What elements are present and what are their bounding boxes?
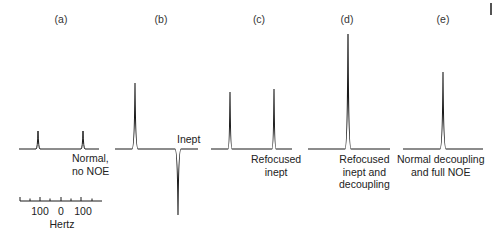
panel-label-d: (d) [341, 13, 354, 25]
caption-e-line-2: and full NOE [397, 166, 485, 179]
caption-c-line-1: Refocused [251, 153, 301, 166]
spectrum-c [211, 89, 292, 149]
spectrum-a [19, 131, 99, 149]
panel-label-b: (b) [155, 13, 168, 25]
caption-a-line-2: no NOE [72, 165, 109, 178]
spectrum-d [308, 34, 390, 149]
caption-c: Refocused inept [251, 153, 301, 178]
caption-e-line-1: Normal decoupling [397, 153, 485, 166]
caption-e: Normal decoupling and full NOE [397, 153, 485, 178]
spectra-figure [0, 0, 500, 236]
caption-a-line-1: Normal, [72, 152, 109, 165]
hertz-scale-bar [20, 197, 102, 201]
caption-d-line-2: inept and [339, 166, 390, 179]
caption-a: Normal, no NOE [72, 152, 109, 177]
panel-label-c: (c) [253, 13, 265, 25]
caption-b: Inept [177, 133, 200, 145]
panel-label-e: (e) [437, 13, 450, 25]
scale-tick-label-right: 100 [74, 205, 92, 217]
panel-label-a: (a) [55, 13, 68, 25]
scale-tick-label-left: 100 [31, 205, 49, 217]
scale-unit-label: Hertz [49, 218, 74, 230]
spectrum-e [403, 72, 483, 149]
spectrum-b [115, 83, 198, 215]
scale-tick-label-zero: 0 [58, 205, 64, 217]
caption-c-line-2: inept [251, 166, 301, 179]
caption-d-line-3: decoupling [339, 178, 390, 191]
caption-d: Refocused inept and decoupling [339, 153, 390, 191]
caption-d-line-1: Refocused [339, 153, 390, 166]
